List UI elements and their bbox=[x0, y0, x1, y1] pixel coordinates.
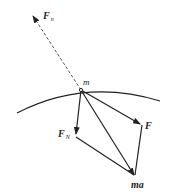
mass-label: m bbox=[83, 78, 90, 87]
ma-vector bbox=[81, 90, 134, 175]
fn-top-label: Fn bbox=[43, 11, 54, 22]
fn-dashed-vector bbox=[33, 16, 81, 90]
ma-label: ma bbox=[131, 180, 144, 190]
fN-label: FN bbox=[58, 129, 70, 140]
F-vector bbox=[81, 90, 140, 124]
fN-vector bbox=[76, 90, 81, 134]
mass-point bbox=[79, 88, 82, 91]
parallelogram-side-right bbox=[135, 125, 142, 175]
force-diagram bbox=[0, 0, 173, 196]
parallelogram-side-bottom-left bbox=[76, 137, 134, 175]
F-label: F bbox=[145, 121, 152, 131]
